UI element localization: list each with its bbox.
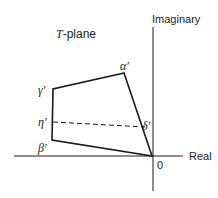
vertex-label-beta: β′ xyxy=(38,142,47,154)
origin-label: 0 xyxy=(157,160,163,171)
vertex-label-eta: η′ xyxy=(38,116,47,128)
vertex-label-alpha: α′ xyxy=(120,60,129,72)
plane-title: T-plane xyxy=(56,28,96,40)
eta-delta-dashed-line xyxy=(53,122,145,127)
real-axis-label: Real xyxy=(189,151,212,162)
plane-title-suffix: -plane xyxy=(63,27,96,41)
diagram-canvas xyxy=(0,0,218,198)
vertex-label-delta: δ′ xyxy=(142,120,150,132)
plane-title-variable: T xyxy=(56,27,63,41)
t-plane-diagram: T-plane Imaginary Real 0 α′ γ′ η′ β′ δ′ xyxy=(0,0,218,198)
imaginary-axis-label: Imaginary xyxy=(152,14,200,25)
mapped-region-polygon xyxy=(52,73,152,156)
vertex-label-gamma: γ′ xyxy=(38,84,45,96)
